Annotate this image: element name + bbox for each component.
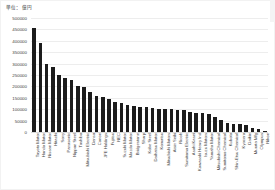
bar[interactable] [138,107,142,132]
bar[interactable] [226,123,230,132]
x-axis-tick-label: NEC [117,133,122,142]
x-axis-tick-label: Asahi Kasei [192,133,197,155]
x-axis-tick-label: Bridgestone [136,133,141,155]
bar[interactable] [145,107,149,132]
x-axis-tick-label: Yamaha Motor [210,133,215,160]
y-axis-tick-label: 500000 [12,16,27,21]
x-axis-tick-label: Kubota [229,133,234,146]
x-axis-tick-label: Honda Motor [42,133,47,157]
bar[interactable] [213,117,217,132]
y-axis-tick-label: 450000 [12,27,27,32]
bar-chart: 単位：億円 0500001000001500002000002500003000… [0,0,275,190]
bar[interactable] [219,120,223,132]
y-axis-tick-label: 150000 [12,95,27,100]
bar[interactable] [244,125,248,132]
x-axis-tick-label: Shin-Etsu Chemical [235,133,240,170]
x-axis: Toyota MotorHonda MotorNissan MotorHitac… [31,133,268,189]
bar[interactable] [107,99,111,132]
scrollbar-thumb[interactable] [270,0,275,22]
x-axis-tick-label: Kawasaki Heavy Ind [198,133,203,171]
bar[interactable] [194,113,198,132]
bar[interactable] [126,105,130,132]
x-axis-tick-label: Fujitsu [111,133,116,145]
unit-label: 単位：億円 [6,5,32,11]
bar[interactable] [157,109,161,132]
bar[interactable] [238,124,242,132]
bar[interactable] [151,108,155,132]
x-axis-tick-label: Hitachi [54,133,59,146]
x-axis-tick-label: Sumitomo Electric [185,133,190,167]
bar[interactable] [95,96,99,132]
bar[interactable] [101,97,105,132]
x-axis-tick-label: Denso [92,133,97,145]
bar[interactable] [163,109,167,132]
x-axis-tick-label: Kobe Steel [148,133,153,154]
bar[interactable] [201,113,205,132]
bar[interactable] [63,78,67,132]
bar[interactable] [232,124,236,132]
x-axis-tick-label: Mitsubishi Motors [167,133,172,166]
x-axis-tick-label: Kyocera [242,133,247,148]
x-axis-tick-label: Panasonic [67,133,72,153]
x-axis-tick-label: Mitsubishi Electric [86,133,91,167]
bar[interactable] [120,103,124,132]
y-axis-tick-label: 350000 [12,50,27,55]
bar[interactable] [113,102,117,132]
y-axis: 0500001000001500002000002500003000003500… [0,18,29,132]
bar[interactable] [51,67,55,132]
bars-layer [31,18,268,132]
bar[interactable] [32,28,36,132]
y-axis-tick-label: 300000 [12,61,27,66]
bar[interactable] [88,92,92,132]
x-axis-tick-label: Mitsubishi Chemical [217,133,222,170]
bar[interactable] [182,110,186,132]
x-axis-tick-label: Isuzu Motors [204,133,209,157]
x-axis-tick-label: Aisin Seiki [173,133,178,152]
x-axis-tick-label: Sumitomo Chemical [223,133,228,170]
bar[interactable] [176,110,180,132]
y-axis-tick-label: 200000 [12,84,27,89]
x-axis-tick-label: Toshiba [79,133,84,147]
bar[interactable] [82,87,86,132]
bar[interactable] [76,86,80,132]
x-axis-tick-label: Murata Mfg [254,133,259,154]
bar[interactable] [207,114,211,132]
bar[interactable] [257,129,261,132]
x-axis-tick-label: Canon [98,133,103,145]
bar[interactable] [39,43,43,132]
x-axis-tick-label: Nikon [266,133,271,144]
bar[interactable] [170,109,174,132]
bar[interactable] [45,64,49,132]
y-axis-tick-label: 400000 [12,38,27,43]
x-axis-tick-label: Komatsu [160,133,165,150]
bar[interactable] [132,106,136,132]
x-axis-tick-label: Daikin [248,133,253,145]
x-axis-tick-label: Mazda Motor [129,133,134,157]
y-axis-tick-label: 0 [25,130,27,135]
x-axis-tick-label: Toyota Motor [36,133,41,157]
x-axis-tick-label: JFE Holdings [104,133,109,158]
x-axis-tick-label: Sony [61,133,66,143]
y-axis-tick-label: 50000 [15,118,27,123]
bar[interactable] [70,80,74,132]
bar[interactable] [188,112,192,132]
bar[interactable] [251,128,255,132]
x-axis-tick-label: Sharp [142,133,147,144]
x-axis-tick-label: Suzuki Motor [123,133,128,157]
y-axis-tick-label: 250000 [12,73,27,78]
bar[interactable] [57,75,61,132]
y-axis-tick-label: 100000 [12,107,27,112]
